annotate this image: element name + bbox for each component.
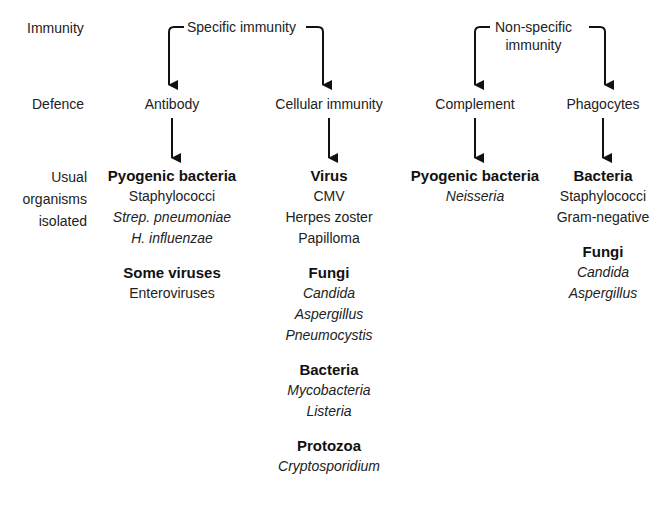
organism-item: Candida [254, 283, 404, 304]
organism-item: H. influenzae [97, 228, 247, 249]
specific-immunity-label: Specific immunity [184, 18, 299, 36]
group-heading: Fungi [254, 262, 404, 283]
organism-item: Aspergillus [254, 304, 404, 325]
organism-group: Bacteria Mycobacteria Listeria [254, 359, 404, 422]
organism-item: Gram-negative [543, 207, 663, 228]
row-label-organisms-line2: organisms [10, 188, 87, 210]
organism-item: Pneumocystis [254, 325, 404, 346]
non-specific-line2: immunity [495, 36, 572, 54]
specific-bracket-left-arrow [169, 27, 184, 85]
column-antibody: Pyogenic bacteria Staphylococci Strep. p… [97, 165, 247, 317]
non-specific-immunity-label: Non-specific immunity [492, 18, 575, 54]
organism-item: Listeria [254, 401, 404, 422]
organism-item: Cryptosporidium [254, 456, 404, 477]
defence-phagocytes: Phagocytes [553, 96, 653, 112]
row-label-organisms: Usual organisms isolated [10, 166, 87, 232]
column-phagocytes: Bacteria Staphylococci Gram-negative Fun… [543, 165, 663, 317]
row-label-organisms-line3: isolated [10, 210, 87, 232]
non-specific-line1: Non-specific [495, 18, 572, 36]
group-heading: Some viruses [97, 262, 247, 283]
group-heading: Pyogenic bacteria [400, 165, 550, 186]
organism-group: Fungi Candida Aspergillus Pneumocystis [254, 262, 404, 346]
organism-item: Neisseria [400, 186, 550, 207]
row-label-organisms-line1: Usual [10, 166, 87, 188]
organism-group: Fungi Candida Aspergillus [543, 241, 663, 304]
organism-group: Pyogenic bacteria Staphylococci Strep. p… [97, 165, 247, 249]
organism-group: Protozoa Cryptosporidium [254, 435, 404, 477]
specific-bracket-right-arrow [306, 27, 323, 85]
organism-item: Papilloma [254, 228, 404, 249]
column-complement: Pyogenic bacteria Neisseria [400, 165, 550, 220]
organism-group: Some viruses Enteroviruses [97, 262, 247, 304]
nonspecific-bracket-right-arrow [589, 27, 605, 85]
organism-item: Herpes zoster [254, 207, 404, 228]
column-cellular-immunity: Virus CMV Herpes zoster Papilloma Fungi … [254, 165, 404, 490]
row-label-immunity: Immunity [27, 20, 84, 36]
group-heading: Protozoa [254, 435, 404, 456]
group-heading: Bacteria [543, 165, 663, 186]
defence-antibody: Antibody [122, 96, 222, 112]
organism-item: Candida [543, 262, 663, 283]
group-heading: Pyogenic bacteria [97, 165, 247, 186]
organism-item: CMV [254, 186, 404, 207]
organism-group: Pyogenic bacteria Neisseria [400, 165, 550, 207]
organism-item: Aspergillus [543, 283, 663, 304]
group-heading: Virus [254, 165, 404, 186]
organism-item: Mycobacteria [254, 380, 404, 401]
defence-complement: Complement [425, 96, 525, 112]
organism-item: Staphylococci [543, 186, 663, 207]
organism-group: Bacteria Staphylococci Gram-negative [543, 165, 663, 228]
organism-item: Enteroviruses [97, 283, 247, 304]
row-label-defence: Defence [32, 96, 84, 112]
defence-cellular-immunity: Cellular immunity [264, 96, 394, 112]
organism-item: Strep. pneumoniae [97, 207, 247, 228]
group-heading: Fungi [543, 241, 663, 262]
organism-item: Staphylococci [97, 186, 247, 207]
nonspecific-bracket-left-arrow [475, 27, 490, 85]
organism-group: Virus CMV Herpes zoster Papilloma [254, 165, 404, 249]
group-heading: Bacteria [254, 359, 404, 380]
